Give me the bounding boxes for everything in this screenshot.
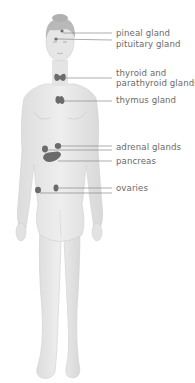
label-thyroid-line1: thyroid and <box>116 69 166 78</box>
thymus-gland-shape <box>55 96 64 104</box>
endocrine-diagram: pineal gland pituitary gland thyroid and… <box>0 0 195 383</box>
neck <box>52 60 68 86</box>
ovary-left-shape <box>35 187 41 194</box>
label-thyroid-line2: parathyroid glands <box>116 79 195 88</box>
label-adrenal-glands: adrenal glands <box>116 143 181 152</box>
left-hand <box>16 223 26 241</box>
label-pituitary-gland: pituitary gland <box>116 40 181 49</box>
label-pancreas: pancreas <box>116 157 156 166</box>
pineal-gland-shape <box>60 29 63 32</box>
label-thymus-gland: thymus gland <box>116 96 176 105</box>
label-pineal-gland: pineal gland <box>116 29 170 38</box>
right-hand <box>92 223 102 241</box>
adrenal-left-shape <box>42 146 48 153</box>
label-ovaries: ovaries <box>116 184 148 193</box>
body-figure <box>0 0 195 383</box>
legs <box>37 225 80 378</box>
